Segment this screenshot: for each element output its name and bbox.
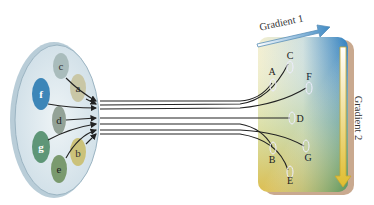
svg-text:e: e bbox=[57, 163, 62, 175]
svg-text:b: b bbox=[75, 147, 81, 159]
gradient-2-label: Gradient 2 bbox=[353, 96, 364, 141]
spot-c: c bbox=[53, 53, 69, 79]
spot-f: f bbox=[32, 78, 50, 110]
svg-text:C: C bbox=[287, 50, 294, 61]
spot-d: d bbox=[52, 106, 66, 134]
svg-text:D: D bbox=[296, 113, 303, 124]
gradient-1-label: Gradient 1 bbox=[258, 13, 304, 33]
svg-text:f: f bbox=[39, 88, 43, 100]
spot-a: a bbox=[70, 74, 86, 102]
spot-e: e bbox=[51, 155, 67, 183]
svg-text:B: B bbox=[269, 154, 276, 165]
svg-text:E: E bbox=[287, 175, 293, 186]
svg-text:F: F bbox=[306, 71, 312, 82]
diagram-canvas: c a f d g b e bbox=[0, 0, 374, 205]
svg-text:g: g bbox=[38, 141, 44, 153]
svg-text:c: c bbox=[59, 60, 64, 72]
svg-text:d: d bbox=[56, 114, 62, 126]
svg-text:G: G bbox=[304, 152, 311, 163]
svg-text:A: A bbox=[268, 66, 276, 77]
spot-g: g bbox=[32, 131, 50, 163]
